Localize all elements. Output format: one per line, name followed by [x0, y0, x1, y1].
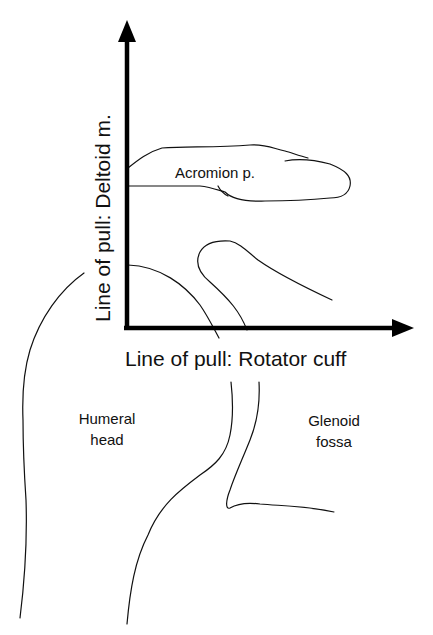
arrow-up-icon	[118, 20, 136, 42]
rotator-cuff-axis	[124, 319, 414, 337]
deltoid-axis-label: Line of pull: Deltoid m.	[91, 114, 114, 322]
glenoid-fossa-label-line2: fossa	[316, 433, 353, 450]
shoulder-force-diagram: Line of pull: Deltoid m. Line of pull: R…	[0, 0, 433, 635]
joint-space-outline	[127, 382, 334, 624]
rotator-cuff-axis-label: Line of pull: Rotator cuff	[125, 347, 347, 370]
humeral-head-label-line2: head	[90, 431, 123, 448]
glenoid-upper-outline	[198, 241, 332, 330]
glenoid-fossa-label-line1: Glenoid	[308, 412, 360, 429]
humeral-head-label-line1: Humeral	[79, 410, 136, 427]
arrow-right-icon	[392, 319, 414, 337]
deltoid-axis	[118, 20, 136, 330]
acromion-label: Acromion p.	[175, 164, 255, 181]
